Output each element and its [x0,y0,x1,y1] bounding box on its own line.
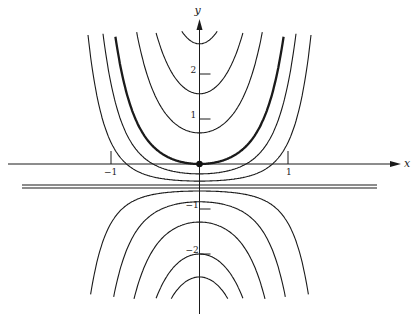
plot-canvas [0,0,414,317]
y-tick-label: 2 [191,66,197,75]
y-tick-label: −1 [186,201,199,210]
x-tick-label: 1 [286,168,292,177]
y-axis-arrow-icon [197,19,203,30]
x-axis-label: x [404,158,410,169]
x-tick-label: −1 [104,168,117,177]
origin-point-marker [196,161,202,167]
x-axis-arrow-icon [390,161,401,167]
y-tick-label: −2 [186,246,199,255]
y-tick-label: 1 [191,111,197,120]
solution-curves-figure: −1121−1−2 x y [0,0,414,317]
y-axis-label: y [195,5,201,16]
